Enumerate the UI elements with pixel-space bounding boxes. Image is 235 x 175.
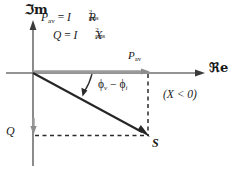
p-av-subscript: av [135, 55, 141, 62]
real-axis-arrowhead [195, 70, 205, 77]
phase-minus-sign: − [110, 78, 117, 90]
equation-p-av: Pav = I2rmsR [41, 11, 96, 25]
p-av-label: Pav [128, 49, 141, 62]
equation-q-lhs: Q [53, 29, 61, 41]
p-av-symbol: P [128, 49, 135, 61]
equation-p-av-current-term: I2rms [67, 11, 89, 23]
equation-q-equals: = [64, 29, 71, 41]
equation-p-av-lhs: P [41, 11, 48, 23]
equation-q-current-term: I2rms [74, 29, 96, 41]
q-arrowhead [30, 126, 36, 135]
reactance-condition-label: (X < 0) [163, 88, 197, 100]
phase-i-subscript: i [126, 84, 128, 92]
phase-angle-arc [84, 74, 92, 92]
equation-p-av-current-symbol: I [67, 11, 71, 23]
equation-q-current-symbol: I [74, 29, 78, 41]
equation-q-current-subscript: rms [95, 32, 105, 39]
q-label: Q [6, 124, 15, 139]
phase-v-subscript: v [104, 84, 107, 92]
phase-angle-label: ϕv − ϕi [98, 78, 128, 92]
imaginary-axis-arrowhead [30, 20, 37, 30]
equation-p-av-equals: = [58, 11, 65, 23]
equation-p-av-lhs-subscript: av [48, 17, 55, 25]
real-axis-label: ℜe [209, 60, 228, 75]
equation-q: Q = I2rmsX [53, 29, 102, 41]
s-vector-label: S [152, 136, 159, 151]
equation-p-av-current-subscript: rms [89, 14, 99, 21]
